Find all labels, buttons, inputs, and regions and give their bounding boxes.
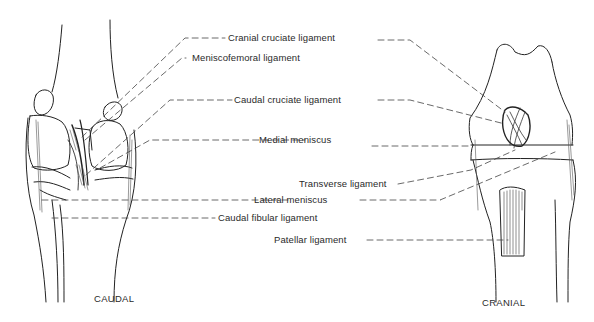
label-caudal-cruciate-ligament: Caudal cruciate ligament — [234, 94, 341, 105]
view-label-cranial: CRANIAL — [482, 297, 525, 308]
caudal-knee-drawing — [26, 20, 136, 302]
knee-joint-illustration — [0, 0, 594, 322]
label-patellar-ligament: Patellar ligament — [274, 234, 346, 245]
label-caudal-fibular-ligament: Caudal fibular ligament — [218, 212, 317, 223]
label-lateral-meniscus: Lateral meniscus — [254, 194, 327, 205]
label-meniscofemoral-ligament: Meniscofemoral ligament — [192, 52, 300, 63]
view-label-caudal: CAUDAL — [94, 293, 134, 304]
label-medial-meniscus: Medial meniscus — [259, 134, 331, 145]
label-cranial-cruciate-ligament: Cranial cruciate ligament — [228, 32, 335, 43]
label-transverse-ligament: Transverse ligament — [299, 178, 387, 189]
cranial-knee-drawing — [469, 44, 575, 302]
